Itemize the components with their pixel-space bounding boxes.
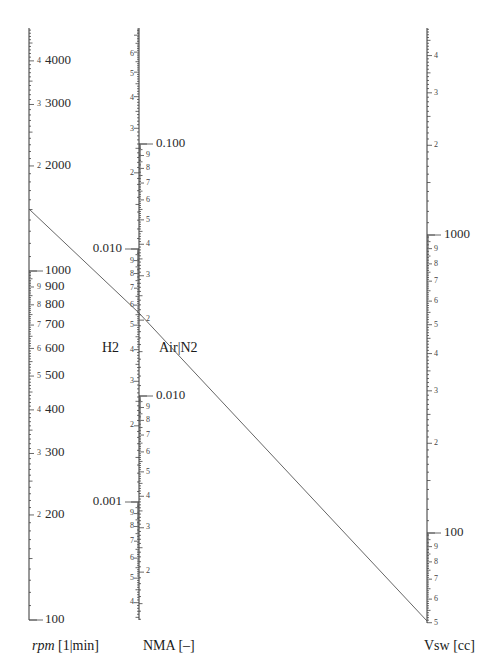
nma-airn2-minor-label: 2 — [146, 566, 150, 575]
nma-h2-minor-label: 7 — [130, 536, 134, 545]
rpm-minor-label: 9 — [37, 282, 41, 291]
nma-axis: 0.0100.00165432987654329876540.1000.0109… — [93, 28, 186, 620]
nma-airn2-minor-label: 3 — [146, 270, 150, 279]
isopleth-line — [29, 209, 427, 621]
nma-h2-minor-label: 9 — [130, 256, 134, 265]
rpm-tick-label: 4000 — [45, 52, 71, 67]
vsw-minor-label: 3 — [434, 88, 438, 97]
rpm-minor-label: 7 — [37, 320, 41, 329]
vsw-minor-label: 4 — [434, 51, 438, 60]
rpm-minor-label: 5 — [37, 371, 41, 380]
rpm-minor-label: 8 — [37, 300, 41, 309]
nma-h2-minor-label: 5 — [130, 573, 134, 582]
vsw-minor-label: 8 — [434, 557, 438, 566]
vsw-minor-label: 3 — [434, 386, 438, 395]
nma-h2-minor-label: 5 — [130, 69, 134, 78]
nma-h2-minor-label: 7 — [130, 283, 134, 292]
nma-h2-minor-label: 4 — [130, 345, 134, 354]
nma-h2-major-label: 0.001 — [93, 493, 122, 508]
nma-axis-title: NMA [–] — [143, 638, 195, 653]
vsw-minor-label: 9 — [434, 244, 438, 253]
nma-h2-minor-label: 2 — [130, 168, 134, 177]
vsw-major-label: 1000 — [444, 226, 470, 241]
nma-airn2-minor-label: 6 — [146, 195, 150, 204]
rpm-axis-title: rpm [1|min] — [32, 638, 99, 653]
nma-airn2-major-label: 0.100 — [156, 135, 185, 150]
vsw-axis-title: Vsw [cc] — [424, 638, 475, 653]
nma-airn2-minor-label: 9 — [146, 150, 150, 159]
gas-label: H2 — [102, 340, 119, 355]
rpm-minor-label: 2 — [37, 510, 41, 519]
rpm-tick-label: 1000 — [45, 262, 71, 277]
vsw-major-label: 100 — [444, 524, 464, 539]
rpm-minor-label: 4 — [37, 405, 41, 414]
vsw-minor-label: 2 — [434, 438, 438, 447]
vsw-minor-label: 9 — [434, 542, 438, 551]
nma-h2-minor-label: 8 — [130, 521, 134, 530]
vsw-minor-label: 7 — [434, 574, 438, 583]
rpm-axis: 1002002300340045005600670078008900910002… — [29, 28, 71, 626]
vsw-minor-label: 7 — [434, 276, 438, 285]
nma-airn2-minor-label: 9 — [146, 402, 150, 411]
vsw-minor-label: 5 — [434, 320, 438, 329]
rpm-tick-label: 700 — [45, 316, 65, 331]
rpm-tick-label: 600 — [45, 340, 65, 355]
nma-airn2-minor-label: 8 — [146, 415, 150, 424]
nma-airn2-minor-label: 6 — [146, 447, 150, 456]
rpm-tick-label: 100 — [45, 611, 65, 626]
nma-airn2-minor-label: 7 — [146, 430, 150, 439]
rpm-tick-label: 300 — [45, 444, 65, 459]
nma-airn2-major-label: 0.010 — [156, 387, 185, 402]
nomogram: 1002002300340045005600670078008900910002… — [0, 0, 501, 668]
vsw-minor-label: 2 — [434, 140, 438, 149]
nma-h2-minor-label: 3 — [130, 376, 134, 385]
nma-airn2-minor-label: 4 — [146, 491, 150, 500]
nma-h2-major-label: 0.010 — [93, 240, 122, 255]
rpm-tick-label: 200 — [45, 506, 65, 521]
nma-h2-minor-label: 2 — [130, 420, 134, 429]
rpm-minor-label: 4 — [37, 56, 41, 65]
rpm-axis-title-units: [1|min] — [55, 638, 99, 653]
vsw-axis: 10001004329876543298765 — [427, 28, 470, 627]
rpm-tick-label: 500 — [45, 367, 65, 382]
nma-airn2-minor-label: 3 — [146, 522, 150, 531]
vsw-minor-label: 6 — [434, 594, 438, 603]
nma-h2-minor-label: 8 — [130, 269, 134, 278]
nma-airn2-minor-label: 5 — [146, 215, 150, 224]
rpm-tick-label: 800 — [45, 296, 65, 311]
rpm-minor-label: 2 — [37, 161, 41, 170]
nma-h2-minor-label: 4 — [130, 93, 134, 102]
vsw-minor-label: 6 — [434, 296, 438, 305]
nma-h2-minor-label: 6 — [130, 49, 134, 58]
nma-h2-minor-label: 6 — [130, 553, 134, 562]
rpm-tick-label: 400 — [45, 401, 65, 416]
nma-airn2-minor-label: 8 — [146, 163, 150, 172]
vsw-minor-label: 8 — [434, 259, 438, 268]
vsw-minor-label: 5 — [434, 618, 438, 627]
gas-label: Air|N2 — [159, 340, 198, 355]
rpm-minor-label: 6 — [37, 344, 41, 353]
rpm-minor-label: 3 — [37, 448, 41, 457]
nma-h2-minor-label: 3 — [130, 124, 134, 133]
rpm-tick-label: 900 — [45, 278, 65, 293]
rpm-minor-label: 3 — [37, 99, 41, 108]
nma-airn2-minor-label: 4 — [146, 239, 150, 248]
nma-h2-minor-label: 5 — [130, 320, 134, 329]
nma-h2-minor-label: 4 — [130, 597, 134, 606]
vsw-minor-label: 4 — [434, 349, 438, 358]
nma-h2-minor-label: 9 — [130, 508, 134, 517]
nma-airn2-minor-label: 7 — [146, 178, 150, 187]
gas-labels: H2Air|N2 — [102, 340, 198, 355]
rpm-tick-label: 3000 — [45, 95, 71, 110]
rpm-tick-label: 2000 — [45, 157, 71, 172]
rpm-axis-title-var: rpm — [32, 638, 55, 653]
nma-airn2-minor-label: 5 — [146, 467, 150, 476]
